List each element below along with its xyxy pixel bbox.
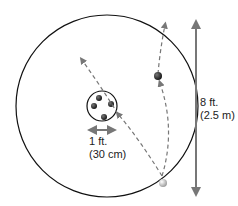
outer-circle xyxy=(16,15,198,197)
light-ball xyxy=(159,179,167,187)
outer-label-line1: 8 ft. xyxy=(200,96,235,109)
dark-ball xyxy=(154,72,162,80)
outer-dimension-label: 8 ft. (2.5 m) xyxy=(200,96,235,122)
trajectory-arrow-top xyxy=(158,25,165,74)
trajectory-arrow-right xyxy=(160,83,169,176)
inner-circle-label: 1 ft. (30 cm) xyxy=(89,135,126,161)
outer-label-line2: (2.5 m) xyxy=(200,109,235,122)
inner-label-line2: (30 cm) xyxy=(89,148,126,161)
inner-label-line1: 1 ft. xyxy=(89,135,126,148)
inner-balls xyxy=(91,95,114,120)
